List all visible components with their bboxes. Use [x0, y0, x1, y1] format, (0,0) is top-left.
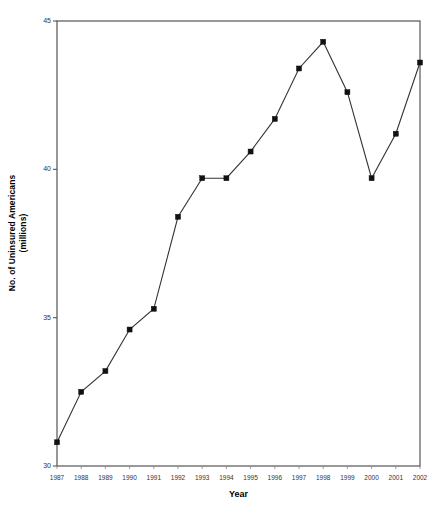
data-point-marker: [248, 149, 253, 154]
y-tick-label: 45: [29, 17, 51, 24]
y-tick-label: 35: [29, 314, 51, 321]
series-markers: [55, 39, 423, 445]
data-point-marker: [127, 327, 132, 332]
data-point-marker: [272, 116, 277, 121]
data-point-marker: [393, 131, 398, 136]
axis-frame: [57, 21, 420, 466]
x-axis-title: Year: [57, 489, 420, 499]
line-chart: No. of Uninsured Americans (millions) 30…: [0, 0, 438, 516]
y-tick-label: 40: [29, 165, 51, 172]
data-point-marker: [369, 176, 374, 181]
data-point-marker: [345, 90, 350, 95]
data-point-marker: [55, 440, 60, 445]
data-point-marker: [200, 176, 205, 181]
data-point-marker: [103, 369, 108, 374]
data-point-marker: [321, 39, 326, 44]
data-point-marker: [151, 306, 156, 311]
x-tick-label: 2002: [405, 474, 435, 481]
series-line: [57, 42, 420, 443]
data-point-marker: [297, 66, 302, 71]
data-point-marker: [176, 214, 181, 219]
data-point-marker: [224, 176, 229, 181]
data-point-marker: [418, 60, 423, 65]
y-tick-label: 30: [29, 462, 51, 469]
data-point-marker: [79, 389, 84, 394]
plot-area: [0, 0, 438, 516]
